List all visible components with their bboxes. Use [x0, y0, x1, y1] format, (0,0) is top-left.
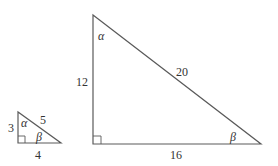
- similar-triangles-diagram: 3 4 5 α β 12 16 20 α β: [0, 0, 278, 166]
- small-right-angle-marker: [18, 136, 25, 143]
- large-hypotenuse-label: 20: [176, 65, 188, 79]
- small-alpha-label: α: [21, 116, 28, 130]
- large-beta-label: β: [229, 130, 236, 144]
- large-triangle: 12 16 20 α β: [76, 15, 261, 162]
- large-horizontal-side-label: 16: [170, 148, 182, 162]
- large-triangle-outline: [93, 15, 261, 144]
- large-alpha-label: α: [98, 29, 105, 43]
- small-vertical-side-label: 3: [8, 121, 14, 135]
- small-triangle: 3 4 5 α β: [8, 112, 61, 162]
- small-hypotenuse-label: 5: [40, 113, 46, 127]
- large-vertical-side-label: 12: [76, 75, 88, 89]
- small-horizontal-side-label: 4: [35, 148, 41, 162]
- diagram-canvas: 3 4 5 α β 12 16 20 α β: [0, 0, 278, 166]
- large-right-angle-marker: [93, 136, 101, 144]
- small-beta-label: β: [35, 130, 42, 144]
